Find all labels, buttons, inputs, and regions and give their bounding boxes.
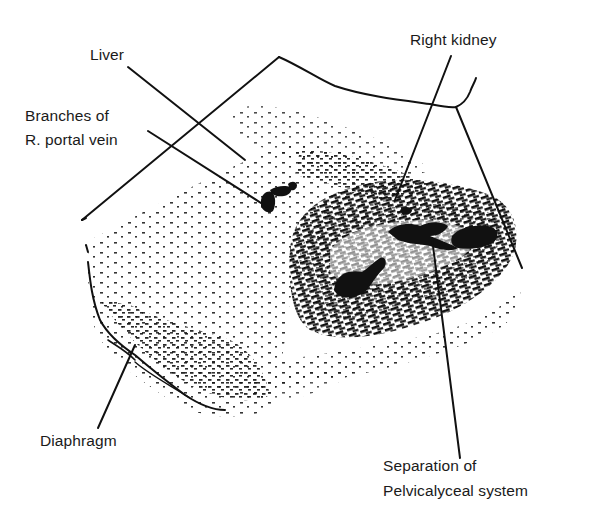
label-right-kidney-text: Right kidney: [410, 31, 497, 49]
ultrasound-drawing: [0, 0, 591, 532]
label-pelvicalyceal-line1: Separation of: [383, 457, 528, 475]
label-portal-vein-line1: Branches of: [25, 107, 118, 125]
label-portal-vein-line2: R. portal vein: [25, 131, 118, 149]
ultrasound-figure: Liver Branches of R. portal vein Right k…: [0, 0, 591, 532]
label-liver: Liver: [90, 46, 124, 64]
label-right-kidney: Right kidney: [410, 31, 497, 49]
label-liver-text: Liver: [90, 46, 124, 64]
skin-surface-line: [279, 57, 476, 107]
label-diaphragm-text: Diaphragm: [40, 432, 117, 450]
leader-line-liver: [128, 67, 245, 160]
label-pelvicalyceal: Separation of Pelvicalyceal system: [383, 457, 528, 500]
label-diaphragm: Diaphragm: [40, 432, 117, 450]
label-pelvicalyceal-line2: Pelvicalyceal system: [383, 482, 528, 500]
label-portal-vein: Branches of R. portal vein: [25, 107, 118, 149]
right-kidney-echo: [290, 180, 517, 338]
leader-line-right-kidney: [395, 56, 451, 200]
